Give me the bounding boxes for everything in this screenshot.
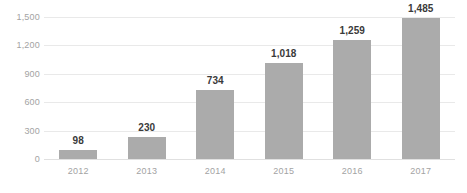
bar[interactable] [196, 90, 234, 159]
bar-slot: 1,259 [318, 17, 387, 159]
bar-slot: 734 [181, 17, 250, 159]
bar-slot: 1,485 [387, 17, 456, 159]
bar-value-label: 734 [207, 76, 224, 86]
bar-value-label: 1,259 [339, 26, 365, 36]
plot-area: 98 230 734 1,018 1,259 1,485 [44, 17, 455, 159]
x-axis-tick-label: 2017 [387, 167, 456, 176]
bar[interactable] [333, 40, 371, 159]
bar[interactable] [59, 150, 97, 159]
x-axis-tick-label: 2012 [44, 167, 113, 176]
bar-value-label: 98 [73, 136, 84, 146]
y-axis-tick-label: 600 [0, 98, 40, 107]
x-axis-tick-label: 2016 [318, 167, 387, 176]
bar-slot: 1,018 [250, 17, 319, 159]
y-axis-tick-label: 1,200 [0, 41, 40, 50]
bar-chart: 1,500 1,200 900 600 300 0 98 230 73 [0, 0, 467, 193]
y-axis-tick-label: 1,500 [0, 13, 40, 22]
x-axis-tick-label: 2013 [113, 167, 182, 176]
y-axis-tick-label: 300 [0, 126, 40, 135]
x-axis-tick-label: 2015 [250, 167, 319, 176]
bar-value-label: 1,018 [271, 49, 297, 59]
axis-baseline [44, 159, 455, 160]
bar-value-label: 230 [138, 123, 155, 133]
bar-slot: 98 [44, 17, 113, 159]
y-axis-tick-label: 0 [0, 155, 40, 164]
bar-value-label: 1,485 [408, 4, 434, 14]
y-axis-tick-label: 900 [0, 69, 40, 78]
bar[interactable] [265, 63, 303, 159]
bar[interactable] [128, 137, 166, 159]
x-axis-tick-label: 2014 [181, 167, 250, 176]
bar[interactable] [402, 18, 440, 159]
bar-slot: 230 [113, 17, 182, 159]
